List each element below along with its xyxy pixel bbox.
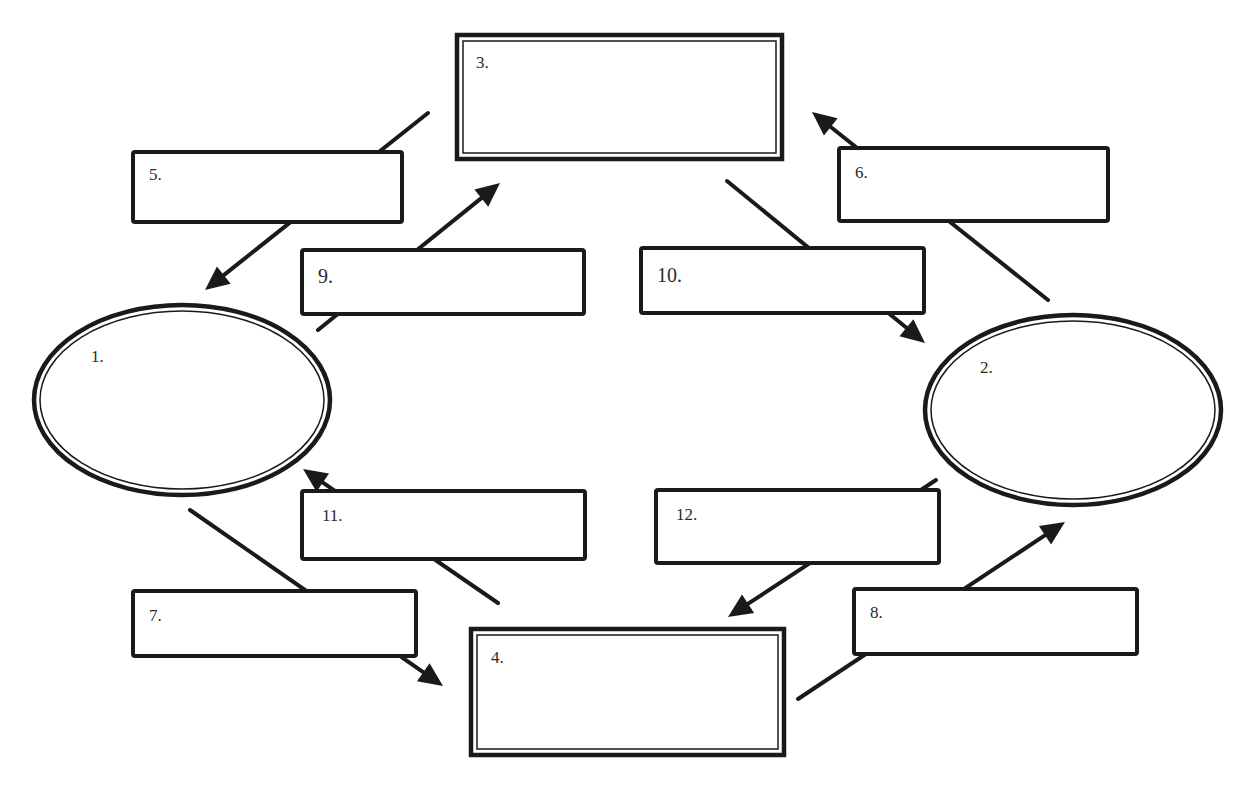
arrowhead-icon	[812, 112, 838, 136]
arrowhead-icon	[303, 469, 329, 492]
box-number-label: 10.	[657, 264, 682, 286]
node-number-label: 4.	[491, 648, 504, 667]
label-box-10[interactable]: 10.	[641, 248, 924, 313]
node-number-label: 2.	[980, 358, 993, 377]
diagram-nodes: 1.2.3.4.5.6.9.10.11.12.7.8.	[34, 35, 1221, 755]
label-box-8[interactable]: 8.	[854, 589, 1137, 654]
ellipse-node-2[interactable]: 2.	[925, 315, 1221, 505]
node-number-label: 3.	[476, 53, 489, 72]
arrowhead-icon	[417, 663, 443, 686]
double-box-node-3[interactable]: 3.	[457, 35, 782, 159]
label-box-6[interactable]: 6.	[839, 148, 1108, 221]
box-number-label: 12.	[676, 505, 697, 524]
ellipse-node-1[interactable]: 1.	[34, 305, 330, 495]
arrowhead-icon	[205, 266, 231, 290]
label-box-5[interactable]: 5.	[133, 152, 402, 222]
label-box-11[interactable]: 11.	[302, 491, 585, 559]
box-number-label: 9.	[318, 265, 333, 287]
concept-map-diagram: 1.2.3.4.5.6.9.10.11.12.7.8.	[0, 0, 1255, 793]
label-box-12[interactable]: 12.	[656, 490, 939, 563]
box-number-label: 7.	[149, 606, 162, 625]
double-box-node-4[interactable]: 4.	[471, 629, 784, 755]
label-box-9[interactable]: 9.	[302, 250, 584, 314]
box-number-label: 8.	[870, 603, 883, 622]
label-box-7[interactable]: 7.	[133, 591, 416, 656]
arrowhead-icon	[728, 595, 754, 617]
node-number-label: 1.	[91, 347, 104, 366]
box-number-label: 6.	[855, 163, 868, 182]
arrowhead-icon	[1039, 522, 1065, 544]
box-number-label: 11.	[322, 506, 343, 525]
box-number-label: 5.	[149, 165, 162, 184]
